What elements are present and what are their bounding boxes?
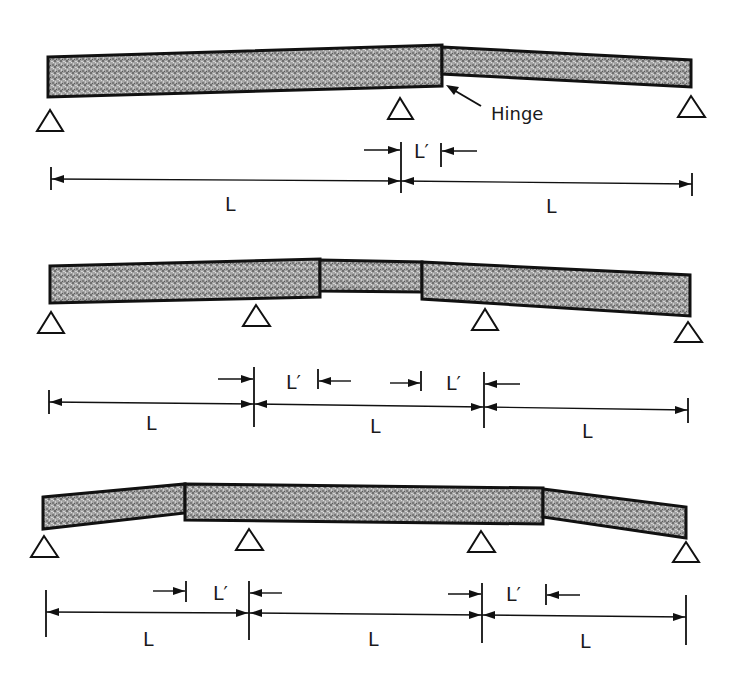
support-triangle-icon bbox=[236, 529, 263, 550]
panel-3: L′ L′ L L L bbox=[31, 484, 699, 652]
support-triangle-icon bbox=[472, 309, 498, 330]
span-label: L bbox=[225, 193, 236, 215]
support-triangle-icon bbox=[678, 96, 705, 117]
beam-segment-right bbox=[422, 262, 690, 316]
support-triangle-icon bbox=[37, 110, 63, 131]
beam-segment-left bbox=[50, 259, 320, 303]
span-label: L bbox=[582, 420, 593, 442]
panel-2: L′ L′ L L L bbox=[38, 259, 702, 442]
span-label: L bbox=[146, 412, 157, 434]
support-triangle-icon bbox=[31, 536, 58, 557]
support-triangle-icon bbox=[675, 322, 702, 342]
beam-segment-left bbox=[43, 484, 185, 529]
offset-label: L′ bbox=[506, 583, 521, 605]
offset-dimension bbox=[218, 369, 351, 389]
beam-segment-middle bbox=[185, 484, 543, 524]
dimension-line bbox=[49, 367, 688, 428]
offset-label: L′ bbox=[414, 140, 429, 162]
beam-segment-left bbox=[48, 45, 442, 97]
beam-segment-middle bbox=[320, 260, 422, 292]
span-label: L bbox=[370, 415, 381, 437]
span-label: L bbox=[143, 628, 154, 650]
offset-label: L′ bbox=[286, 371, 301, 393]
span-label: L bbox=[546, 195, 557, 217]
support-triangle-icon bbox=[388, 98, 413, 119]
beam-segment-right bbox=[442, 47, 691, 87]
support-triangle-icon bbox=[38, 312, 64, 333]
offset-label: L′ bbox=[213, 582, 228, 604]
span-label: L bbox=[368, 628, 379, 650]
beam-segment-right bbox=[543, 489, 686, 538]
panel-1: Hinge L′ L L bbox=[37, 45, 705, 217]
span-label: L bbox=[580, 630, 591, 652]
support-triangle-icon bbox=[468, 531, 495, 552]
support-triangle-icon bbox=[673, 542, 699, 562]
hinge-label: Hinge bbox=[491, 103, 543, 124]
offset-label: L′ bbox=[446, 372, 461, 394]
hinge-pointer-arrow-icon bbox=[446, 85, 481, 106]
beam-hinge-diagram: Hinge L′ L L bbox=[0, 0, 738, 673]
support-triangle-icon bbox=[243, 305, 270, 326]
